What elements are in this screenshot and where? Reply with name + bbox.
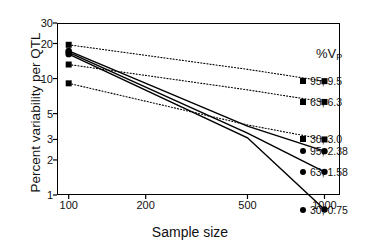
legend-item[interactable]: 63, 6.3: [300, 96, 342, 108]
square-marker-icon: [300, 78, 306, 84]
legend-item[interactable]: 63, 1.58: [300, 166, 348, 178]
legend-item[interactable]: 95, 2.38: [300, 145, 348, 157]
circle-marker-icon: [300, 169, 306, 175]
circle-marker-icon: [300, 148, 306, 154]
legend-item-label: 30, 3.0: [310, 133, 342, 145]
legend-item[interactable]: 30, 0.75: [300, 204, 348, 216]
legend-item-label: 95, 9.5: [310, 75, 342, 87]
legend-item[interactable]: 95, 9.5: [300, 75, 342, 87]
x-tick-label: 200: [124, 199, 168, 211]
data-point-marker: [66, 62, 72, 68]
legend-title: %VP: [316, 46, 366, 62]
legend-item-label: 95, 2.38: [310, 145, 348, 157]
legend-item-label: 63, 1.58: [310, 166, 348, 178]
circle-marker-icon: [300, 207, 306, 213]
data-point-marker: [66, 51, 72, 57]
legend-title-text: %V: [316, 46, 336, 61]
square-marker-icon: [300, 136, 306, 142]
series-line: [69, 45, 325, 81]
legend-title-subscript: P: [336, 52, 342, 62]
legend: %VP 95, 9.563, 6.330, 3.095, 2.3863, 1.5…: [300, 46, 366, 62]
x-axis-label: Sample size: [60, 224, 320, 240]
series-line: [69, 51, 325, 151]
legend-item-label: 63, 6.3: [310, 96, 342, 108]
data-point-marker: [66, 80, 72, 86]
x-tick-label: 500: [225, 199, 269, 211]
series-line: [69, 52, 325, 172]
data-point-marker: [66, 42, 72, 48]
x-tick-label: 100: [47, 199, 91, 211]
chart-figure: Percent variability per QTL 1235102030 1…: [0, 0, 368, 250]
square-marker-icon: [300, 99, 306, 105]
legend-item-label: 30, 0.75: [310, 204, 348, 216]
legend-item[interactable]: 30, 3.0: [300, 133, 342, 145]
series-line: [69, 83, 325, 139]
